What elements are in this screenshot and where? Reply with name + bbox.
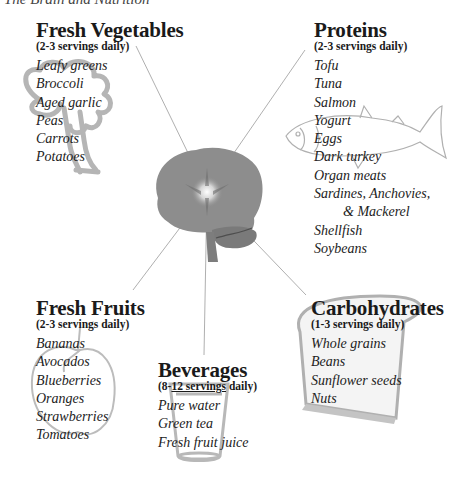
- list-item: Green tea: [158, 415, 257, 433]
- list-item: Organ meats: [314, 167, 430, 185]
- list-item: Yogurt: [314, 112, 430, 130]
- food-list: Tofu Tuna Salmon Yogurt Eggs Dark turkey…: [314, 57, 430, 258]
- group-title: Proteins: [314, 20, 430, 40]
- group-beverages: Beverages (8-12 servings daily) Pure wat…: [158, 360, 257, 452]
- list-item: Sardines, Anchovies,: [314, 185, 430, 203]
- list-item: Salmon: [314, 94, 430, 112]
- list-item: Bananas: [36, 335, 145, 353]
- list-item: Fresh fruit juice: [158, 434, 257, 452]
- list-item: Tofu: [314, 57, 430, 75]
- group-fresh-vegetables: Fresh Vegetables (2-3 servings daily) Le…: [36, 20, 184, 167]
- servings-underlined: 12 servings: [171, 380, 226, 392]
- list-item: Leafy greens: [36, 57, 184, 75]
- servings-prefix: (8-: [158, 380, 171, 392]
- list-item: Pure water: [158, 397, 257, 415]
- group-proteins: Proteins (2-3 servings daily) Tofu Tuna …: [314, 20, 430, 258]
- group-title: Carbohydrates: [311, 298, 444, 318]
- list-item: Broccoli: [36, 75, 184, 93]
- list-item: Peas: [36, 112, 184, 130]
- group-title: Fresh Fruits: [36, 298, 145, 318]
- list-item: Potatoes: [36, 148, 184, 166]
- list-item: Aged garlic: [36, 94, 184, 112]
- list-item: & Mackerel: [314, 203, 430, 221]
- group-title: Beverages: [158, 360, 257, 380]
- list-item: Nuts: [311, 390, 444, 408]
- list-item: Tomatoes: [36, 426, 145, 444]
- food-list: Bananas Avocados Blueberries Oranges Str…: [36, 335, 145, 445]
- food-list: Pure water Green tea Fresh fruit juice: [158, 397, 257, 452]
- list-item: Blueberries: [36, 372, 145, 390]
- food-list: Whole grains Beans Sunflower seeds Nuts: [311, 335, 444, 408]
- list-item: Shellfish: [314, 222, 430, 240]
- group-servings: (2-3 servings daily): [314, 40, 430, 52]
- list-item: Oranges: [36, 390, 145, 408]
- list-item: Whole grains: [311, 335, 444, 353]
- list-item: Carrots: [36, 130, 184, 148]
- list-item: Tuna: [314, 75, 430, 93]
- list-item: Avocados: [36, 353, 145, 371]
- list-item: Soybeans: [314, 240, 430, 258]
- group-fresh-fruits: Fresh Fruits (2-3 servings daily) Banana…: [36, 298, 145, 445]
- group-servings: (8-12 servings daily): [158, 380, 257, 392]
- servings-suffix: daily): [226, 380, 257, 392]
- list-item: Dark turkey: [314, 148, 430, 166]
- list-item: Strawberries: [36, 408, 145, 426]
- group-servings: (2-3 servings daily): [36, 318, 145, 330]
- list-item: Beans: [311, 353, 444, 371]
- group-title: Fresh Vegetables: [36, 20, 184, 40]
- list-item: Eggs: [314, 130, 430, 148]
- food-list: Leafy greens Broccoli Aged garlic Peas C…: [36, 57, 184, 167]
- list-item: Sunflower seeds: [311, 372, 444, 390]
- group-carbohydrates: Carbohydrates (1-3 servings daily) Whole…: [311, 298, 444, 408]
